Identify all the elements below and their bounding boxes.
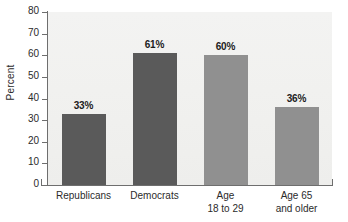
bar-value-label: 60% (216, 41, 236, 52)
x-axis-label: Age18 to 29 (190, 189, 261, 215)
y-axis-tick: 20 (0, 142, 48, 143)
bar: 61% (133, 53, 177, 185)
x-axis-label: Democrats (119, 189, 190, 202)
y-tick-label: 60 (28, 48, 39, 59)
y-axis-tick: 70 (0, 34, 48, 35)
bar-value-label: 61% (145, 39, 165, 50)
y-axis-tick: 40 (0, 99, 48, 100)
y-tick-label: 80 (28, 5, 39, 16)
x-axis-cap-right (332, 179, 333, 186)
x-axis-label-line1: Democrats (130, 190, 178, 201)
y-tick-label: 20 (28, 135, 39, 146)
bar-value-label: 36% (287, 93, 307, 104)
x-axis-label-line1: Age 65 (281, 190, 313, 201)
x-axis-label-line1: Republicans (56, 190, 111, 201)
y-axis-tick: 30 (0, 120, 48, 121)
bar: 36% (275, 107, 319, 185)
y-tick-label: 50 (28, 70, 39, 81)
bar: 33% (62, 114, 106, 185)
x-axis-line (41, 185, 333, 186)
y-axis-tick: 10 (0, 163, 48, 164)
y-axis-tick: 50 (0, 77, 48, 78)
x-axis-label: Republicans (48, 189, 119, 202)
x-axis-label: Age 65and older (261, 189, 332, 215)
y-axis-tick: 80 (0, 12, 48, 13)
y-axis-title: Percent (5, 48, 16, 118)
y-axis-line (47, 11, 48, 186)
bar-chart: Percent 80706050403020100 33%61%60%36% R… (0, 0, 348, 222)
bar-value-label: 33% (74, 100, 94, 111)
y-tick-label: 30 (28, 113, 39, 124)
bar: 60% (204, 55, 248, 185)
y-tick-label: 70 (28, 27, 39, 38)
y-tick-label: 0 (33, 178, 39, 189)
x-axis-cap-left (41, 179, 42, 186)
x-axis-label-line2: 18 to 29 (190, 202, 261, 215)
y-axis-tick: 60 (0, 55, 48, 56)
x-axis-label-line1: Age (217, 190, 235, 201)
y-tick-label: 10 (28, 156, 39, 167)
y-tick-label: 40 (28, 92, 39, 103)
x-axis-label-line2: and older (261, 202, 332, 215)
